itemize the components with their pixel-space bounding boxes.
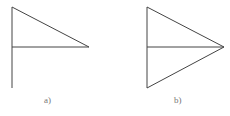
figure-a-label: a) [44, 96, 51, 105]
figure-b-lower-side [147, 47, 224, 88]
figure-b-upper-side [147, 7, 224, 47]
diagram-canvas [0, 0, 230, 116]
figure-a [12, 7, 89, 88]
figure-a-hypotenuse [12, 7, 89, 47]
figure-b [147, 7, 224, 88]
figure-b-label: b) [174, 96, 182, 105]
